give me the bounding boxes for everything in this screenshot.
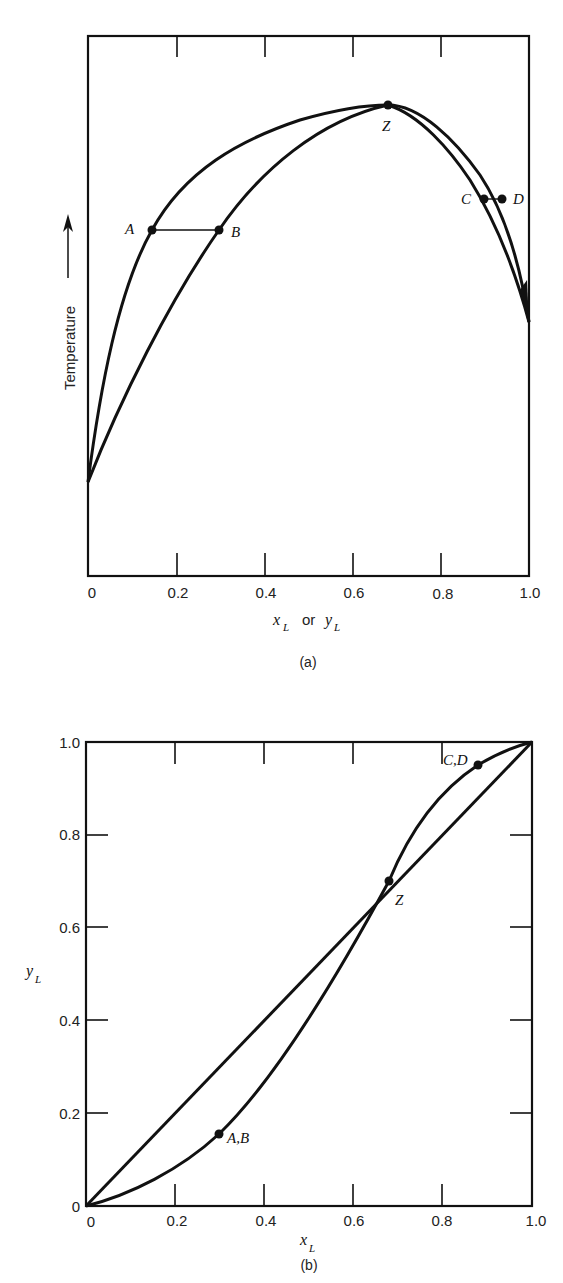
svg-text:Temperature: Temperature [61, 306, 78, 390]
plot-a-top-ticks [177, 36, 441, 57]
y-tick-label: 0.8 [59, 826, 80, 843]
label-z: Z [382, 118, 391, 134]
svg-text:x: x [272, 611, 280, 628]
point-z [385, 877, 394, 886]
x-tick-label: 0.4 [256, 584, 277, 601]
x-tick-label: 0 [87, 1213, 95, 1230]
y-tick-label: 1.0 [59, 734, 80, 751]
svg-text:L: L [34, 973, 41, 985]
svg-text:x: x [299, 1231, 307, 1248]
svg-text:L: L [282, 621, 289, 633]
point-cd [474, 761, 483, 770]
plot-b-x-tick-labels: 0 0.2 0.4 0.6 0.8 1.0 [87, 1212, 547, 1230]
plot-b-y-tick-labels: 0 0.2 0.4 0.6 0.8 1.0 [59, 734, 80, 1215]
label-z: Z [395, 892, 404, 908]
label-b: B [231, 224, 240, 240]
caption-b: (b) [300, 1257, 317, 1273]
x-tick-label: 0.8 [432, 1212, 453, 1229]
plot-a-bottom-ticks [177, 553, 441, 576]
label-ab: A,B [226, 1130, 249, 1146]
y-tick-label: 0.4 [59, 1012, 80, 1029]
figure: 0 0.2 0.4 0.6 0.8 1.0 x L or y L Tempera… [0, 0, 563, 1283]
x-tick-label: 0 [88, 584, 96, 601]
point-ab [215, 1130, 224, 1139]
y-tick-label: 0.2 [59, 1105, 80, 1122]
svg-text:y: y [24, 962, 34, 980]
label-a: A [124, 221, 135, 237]
x-tick-label: 0.8 [433, 585, 454, 602]
plot-b: 0 0.2 0.4 0.6 0.8 1.0 0 0.2 0.4 0.6 0.8 … [24, 734, 546, 1273]
plot-b-right-ticks [510, 835, 532, 1113]
y-tick-label: 0.6 [59, 919, 80, 936]
x-tick-label: 1.0 [520, 584, 541, 601]
plot-a-x-tick-labels: 0 0.2 0.4 0.6 0.8 1.0 [88, 584, 541, 602]
plot-b-left-ticks [86, 835, 108, 1113]
x-tick-label: 0.6 [344, 1212, 365, 1229]
svg-text:y: y [323, 611, 333, 629]
svg-text:L: L [333, 621, 340, 633]
label-c: C [461, 191, 472, 207]
x-tick-label: 0.6 [344, 584, 365, 601]
diagonal-line [86, 742, 532, 1206]
bubble-curve [88, 105, 529, 482]
x-tick-label: 0.2 [168, 584, 189, 601]
dew-curve [88, 105, 529, 482]
point-d [498, 195, 507, 204]
plot-b-x-axis-label: x L [299, 1231, 315, 1254]
y-tick-label: 0 [72, 1198, 80, 1215]
plot-b-bottom-ticks [175, 1184, 442, 1206]
x-tick-label: 0.4 [256, 1212, 277, 1229]
point-a [148, 226, 157, 235]
x-tick-label: 0.2 [167, 1212, 188, 1229]
point-b [215, 226, 224, 235]
svg-text:or: or [302, 611, 315, 628]
plot-a-y-axis-label: Temperature [61, 214, 78, 390]
x-tick-label: 1.0 [526, 1212, 547, 1229]
plot-b-top-ticks [175, 742, 442, 764]
plot-a-x-axis-label: x L or y L [272, 611, 340, 633]
plot-b-y-axis-label: y L [24, 962, 41, 985]
caption-a: (a) [299, 654, 316, 670]
label-cd: C,D [443, 752, 468, 768]
point-z [384, 101, 393, 110]
plot-a: 0 0.2 0.4 0.6 0.8 1.0 x L or y L Tempera… [61, 36, 540, 670]
point-c [480, 195, 489, 204]
svg-text:L: L [308, 1242, 315, 1254]
label-d: D [512, 191, 524, 207]
